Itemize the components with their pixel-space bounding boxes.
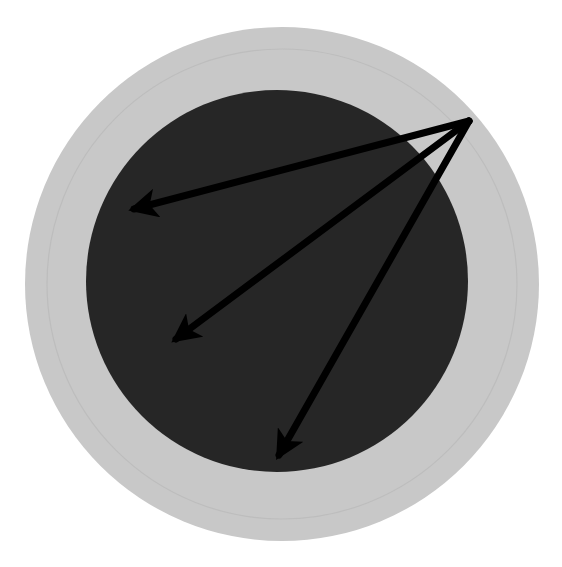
core-disc	[86, 90, 468, 472]
diagram-canvas	[0, 0, 562, 567]
